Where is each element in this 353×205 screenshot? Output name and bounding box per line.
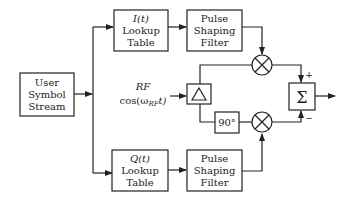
i-lookup-table-block: I(t) Lookup Table — [114, 10, 168, 51]
i-lut-line-1: Lookup — [122, 25, 160, 36]
sigma-icon: Σ — [296, 88, 307, 107]
source-line-1: User — [35, 77, 59, 88]
q-lut-line-1: Lookup — [121, 165, 159, 176]
user-symbol-stream-block: User Symbol Stream — [20, 73, 74, 116]
i-lut-title: I(t) — [132, 13, 149, 24]
q-filter-line-3: Filter — [200, 177, 228, 188]
i-pulse-shaping-filter-block: Pulse Shaping Filter — [187, 10, 242, 51]
q-lookup-table-block: Q(t) Lookup Table — [112, 150, 168, 191]
splitter-block — [187, 84, 211, 104]
source-line-3: Stream — [28, 101, 66, 112]
rf-input-label: RF cos(ωRFt) — [120, 81, 167, 108]
q-lut-line-2: Table — [126, 177, 153, 188]
q-lut-title: Q(t) — [130, 153, 150, 164]
i-mixer — [252, 55, 272, 75]
q-filter-line-1: Pulse — [201, 153, 228, 164]
q-pulse-shaping-filter-block: Pulse Shaping Filter — [187, 150, 242, 191]
i-filter-line-3: Filter — [200, 37, 228, 48]
summer-block: Σ — [289, 83, 315, 110]
rf-expression: cos(ωRFt) — [120, 95, 167, 108]
i-lut-line-2: Table — [127, 37, 154, 48]
phase-shift-block: 90° — [215, 112, 239, 133]
wire-q-mixer-to-summer — [272, 111, 301, 122]
wire-q-filter-to-mixer — [242, 134, 262, 171]
wire-splitter-to-i-mixer — [200, 65, 252, 84]
i-filter-line-2: Shaping — [194, 25, 236, 36]
phase-shift-label: 90° — [218, 117, 236, 128]
q-filter-line-2: Shaping — [194, 165, 236, 176]
wire-i-filter-to-mixer — [242, 27, 262, 54]
source-line-2: Symbol — [28, 89, 66, 100]
rf-label: RF — [135, 81, 152, 92]
wire-i-mixer-to-summer — [272, 65, 301, 82]
quadrature-modulator-diagram: User Symbol Stream I(t) Lookup Table Q(t… — [0, 0, 353, 205]
q-mixer — [252, 112, 272, 132]
minus-sign: − — [305, 113, 313, 123]
plus-sign: + — [305, 70, 313, 80]
i-filter-line-1: Pulse — [201, 13, 228, 24]
wire-splitter-to-phase — [200, 104, 215, 122]
